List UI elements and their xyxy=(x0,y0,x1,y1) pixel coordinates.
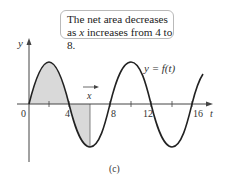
y-axis-label: y xyxy=(17,37,23,49)
y-axis-arrow-icon xyxy=(27,38,32,45)
moving-x-label: x xyxy=(86,90,92,101)
tick-label-16: 16 xyxy=(193,108,203,119)
tick-label-8: 8 xyxy=(111,108,116,119)
callout-line-2: as x increases from 4 to 8. xyxy=(67,26,173,52)
origin-label: 0 xyxy=(21,108,26,119)
t-axis-label: t xyxy=(210,108,213,119)
tick-label-12: 12 xyxy=(143,108,153,119)
caption: (c) xyxy=(109,164,120,175)
curve-label: y = f(t) xyxy=(143,62,176,75)
arrow-right-icon xyxy=(94,85,99,89)
callout-box: The net area decreases as x increases fr… xyxy=(60,10,174,39)
callout-line-1: The net area decreases xyxy=(67,13,173,26)
t-axis-arrow-icon xyxy=(206,102,213,107)
callout-text: as xyxy=(67,26,79,38)
tick-label-4: 4 xyxy=(65,108,70,119)
